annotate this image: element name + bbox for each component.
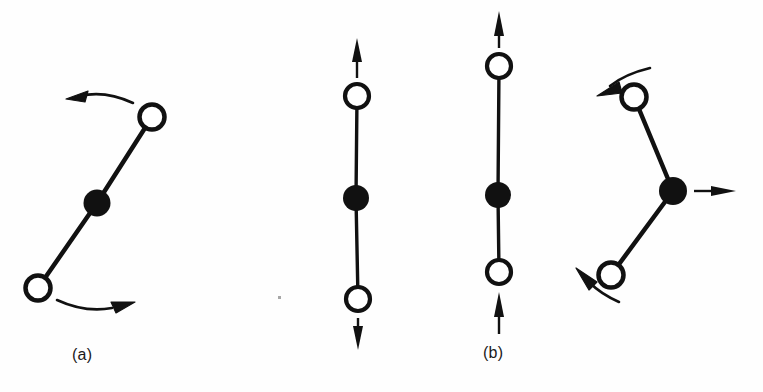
atom-filled-center [343, 185, 369, 211]
atom-open-top [487, 54, 511, 78]
bond-center-to-bottom [611, 191, 673, 275]
arrow-top-straight-up [494, 11, 504, 48]
arrow-top-straight-up [352, 38, 362, 78]
panel-label-a: (a) [72, 346, 92, 364]
scan-speck-artifact [278, 296, 281, 299]
atom-filled-center [84, 190, 111, 217]
arrow-bottom-straight-up [494, 292, 504, 334]
atom-open-top [140, 105, 165, 130]
atom-open-bottom [599, 263, 624, 288]
arrowhead-right [711, 186, 736, 196]
bond-center-to-top [634, 97, 673, 191]
atom-open-bottom [26, 276, 51, 301]
bond-center-to-bottom [356, 198, 358, 299]
atom-open-top [622, 85, 647, 110]
diagram-bending-mode-right [576, 68, 736, 302]
atom-filled-center [485, 182, 511, 208]
arrowhead-up [352, 38, 362, 62]
arrowhead-up [494, 11, 504, 36]
bond-center-to-top [356, 96, 357, 198]
arrowhead-up [494, 292, 504, 317]
arrowhead-down [353, 326, 363, 350]
panel-label-b: (b) [483, 344, 503, 362]
arrow-bottom-curved-right [57, 300, 135, 313]
figure-canvas [0, 0, 763, 392]
diagram-asymmetric-stretch [485, 11, 511, 334]
arrow-center-straight-right [694, 186, 736, 196]
bond-center-to-top [498, 66, 499, 195]
arrow-bottom-straight-down [353, 318, 363, 350]
diagram-bending-mode-left [26, 91, 165, 313]
arrow-top-curved-left [66, 91, 133, 103]
atom-open-top [345, 84, 369, 108]
atom-open-bottom [346, 287, 370, 311]
bond-center-to-top [97, 117, 152, 203]
atom-open-bottom [487, 260, 511, 284]
bond-center-to-bottom [38, 203, 97, 288]
vibrational-modes-figure: (a) (b) [0, 0, 763, 392]
diagram-symmetric-stretch [343, 38, 370, 350]
atom-filled-center [659, 177, 687, 205]
